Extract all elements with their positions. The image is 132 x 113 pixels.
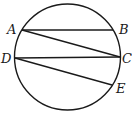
label-d: D: [0, 51, 12, 66]
label-c: C: [122, 51, 132, 66]
label-e: E: [115, 81, 126, 96]
label-b: B: [118, 22, 129, 37]
chord-ac: [22, 30, 120, 57]
chord-dc: [15, 57, 120, 58]
chord-de: [15, 58, 112, 85]
label-a: A: [6, 22, 16, 37]
circle-chord-diagram: A B C D E: [0, 0, 132, 113]
